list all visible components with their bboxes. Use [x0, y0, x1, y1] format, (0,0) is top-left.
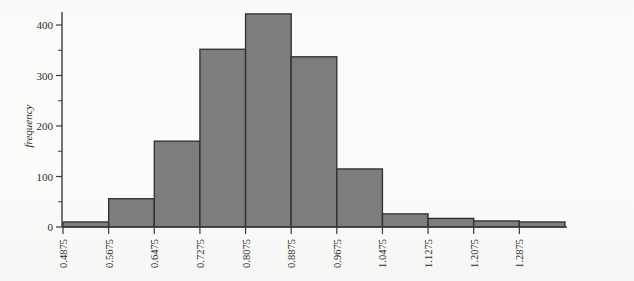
- y-tick-label: 300: [37, 70, 54, 82]
- y-tick-label: 200: [37, 120, 54, 132]
- histogram-bar: [291, 57, 337, 227]
- histogram-chart: 0100200300400 0.48750.56750.64750.72750.…: [0, 0, 634, 281]
- histogram-bar: [63, 222, 109, 227]
- y-tick-label: 100: [37, 171, 54, 183]
- x-tick-label: 0.6475: [149, 239, 160, 268]
- y-tick-label: 0: [48, 221, 54, 233]
- x-tick-label: 0.8875: [286, 239, 297, 268]
- x-tick-label: 0.9675: [332, 239, 343, 268]
- y-axis-label: frequency: [22, 104, 34, 147]
- bars-layer: [63, 14, 565, 227]
- histogram-bar: [428, 218, 474, 227]
- histogram-bar: [246, 14, 292, 227]
- histogram-bar: [200, 49, 246, 227]
- x-axis-ticks: 0.48750.56750.64750.72750.80750.88750.96…: [58, 227, 525, 268]
- y-axis-title: frequency: [22, 104, 34, 147]
- histogram-bar: [337, 169, 383, 227]
- x-tick-label: 1.2875: [514, 239, 525, 268]
- histogram-bar: [519, 222, 565, 227]
- x-tick-label: 0.4875: [58, 239, 69, 268]
- x-tick-label: 0.7275: [195, 239, 206, 268]
- histogram-bar: [109, 199, 155, 227]
- y-tick-label: 400: [37, 19, 54, 31]
- x-tick-label: 1.1275: [423, 239, 434, 268]
- x-tick-label: 1.2075: [469, 239, 480, 268]
- x-tick-label: 0.5675: [104, 239, 115, 268]
- histogram-bar: [474, 221, 520, 227]
- histogram-bar: [154, 141, 200, 227]
- y-axis-ticks: 0100200300400: [37, 19, 63, 233]
- x-tick-label: 1.0475: [377, 239, 388, 268]
- histogram-bar: [382, 214, 428, 227]
- x-tick-label: 0.8075: [241, 239, 252, 268]
